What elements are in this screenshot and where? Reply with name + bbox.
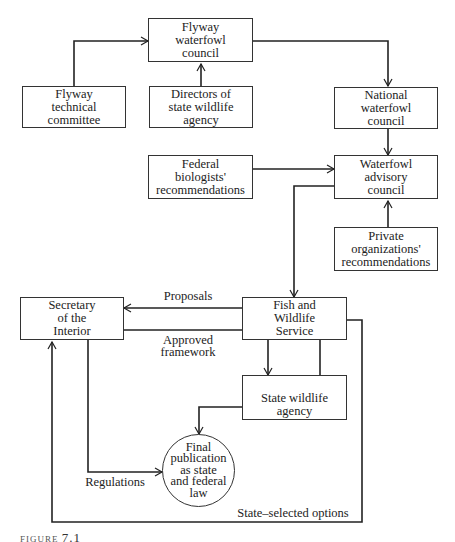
node-private-organizations: Private organizations' recommendations	[334, 227, 438, 271]
label-regulations: Regulations	[84, 476, 146, 488]
node-fish-wildlife-service: Fish and Wildlife Service	[242, 297, 347, 340]
node-national-waterfowl-council: National waterfowl council	[334, 87, 438, 129]
node-flyway-waterfowl-council: Flyway waterfowl council	[148, 18, 253, 62]
node-final-publication: Final publication as state and federal l…	[162, 434, 235, 507]
caption-prefix: FIGURE	[20, 534, 59, 542]
label-approved-framework: Approved framework	[152, 334, 224, 358]
node-flyway-technical-committee: Flyway technical committee	[22, 86, 126, 128]
node-directors-state-wildlife: Directors of state wildlife agency	[149, 86, 253, 128]
label-state-selected-options: State–selected options	[236, 507, 350, 519]
label-proposals: Proposals	[158, 290, 218, 302]
node-waterfowl-advisory-council: Waterfowl advisory council	[334, 155, 438, 199]
figure-caption: FIGURE 7.1	[20, 530, 81, 542]
node-federal-biologists: Federal biologists' recommendations	[148, 155, 253, 199]
node-state-wildlife-agency: State wildlife agency	[242, 375, 347, 420]
caption-number: 7.1	[62, 530, 81, 542]
node-secretary-interior: Secretary of the Interior	[20, 297, 124, 340]
